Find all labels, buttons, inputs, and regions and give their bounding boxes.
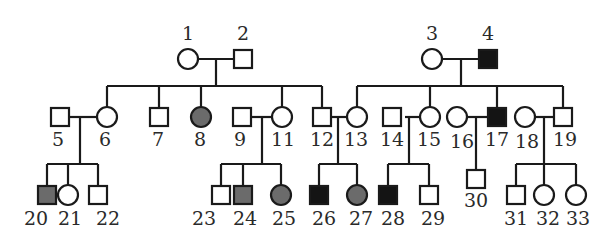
label-12: 12 — [310, 128, 334, 150]
label-18: 18 — [515, 130, 539, 152]
label-7: 7 — [152, 128, 164, 150]
label-9: 9 — [234, 128, 246, 150]
label-30: 30 — [464, 189, 488, 211]
individual-3-female — [422, 49, 442, 69]
label-5: 5 — [52, 128, 64, 150]
individual-21-female — [58, 185, 78, 205]
pedigree-chart: 1 2 3 4 5 6 7 8 9 11 12 13 14 15 16 17 1… — [0, 0, 608, 249]
label-13: 13 — [344, 128, 368, 150]
individual-27-female-affected — [347, 185, 367, 205]
individual-5-male — [51, 108, 69, 126]
label-20: 20 — [24, 207, 48, 229]
label-31: 31 — [504, 207, 528, 229]
label-32: 32 — [536, 207, 560, 229]
individual-14-male — [383, 108, 401, 126]
individual-7-male — [150, 108, 168, 126]
label-2: 2 — [237, 22, 249, 44]
label-25: 25 — [272, 207, 296, 229]
individual-9-male — [233, 108, 251, 126]
individual-1-female — [178, 49, 198, 69]
individual-16-female — [447, 107, 467, 127]
individual-24-male-affected — [234, 186, 252, 204]
label-8: 8 — [194, 128, 206, 150]
individual-13-female — [347, 107, 367, 127]
label-11: 11 — [271, 128, 295, 150]
individual-29-male — [420, 186, 438, 204]
individual-17-male-affected — [488, 108, 506, 126]
label-1: 1 — [182, 22, 194, 44]
label-23: 23 — [192, 207, 216, 229]
label-24: 24 — [233, 207, 257, 229]
individual-23-male — [212, 186, 230, 204]
label-33: 33 — [566, 207, 590, 229]
label-4: 4 — [482, 22, 494, 44]
individual-8-female-affected — [191, 107, 211, 127]
label-19: 19 — [553, 128, 577, 150]
individual-25-female-affected — [271, 185, 291, 205]
individual-11-female — [272, 107, 292, 127]
label-14: 14 — [380, 128, 404, 150]
individual-32-female — [534, 185, 554, 205]
pedigree-individuals — [38, 49, 586, 205]
individual-15-female — [420, 107, 440, 127]
label-21: 21 — [58, 207, 82, 229]
individual-33-female — [566, 185, 586, 205]
label-28: 28 — [381, 207, 405, 229]
label-16: 16 — [450, 130, 474, 152]
individual-20-male-affected — [38, 186, 56, 204]
individual-18-female — [515, 107, 535, 127]
individual-12-male — [313, 108, 331, 126]
label-29: 29 — [421, 207, 445, 229]
individual-19-male — [554, 108, 572, 126]
individual-2-male — [234, 50, 252, 68]
label-27: 27 — [349, 207, 373, 229]
label-17: 17 — [485, 128, 509, 150]
label-15: 15 — [417, 128, 441, 150]
individual-6-female — [97, 107, 117, 127]
label-22: 22 — [96, 207, 120, 229]
individual-4-male-affected — [479, 50, 497, 68]
individual-26-male-affected — [310, 186, 328, 204]
individual-31-male — [507, 186, 525, 204]
individual-30-male — [467, 170, 485, 188]
label-3: 3 — [426, 22, 438, 44]
label-26: 26 — [312, 207, 336, 229]
individual-22-male — [89, 186, 107, 204]
label-6: 6 — [99, 128, 111, 150]
individual-28-male-affected — [379, 186, 397, 204]
